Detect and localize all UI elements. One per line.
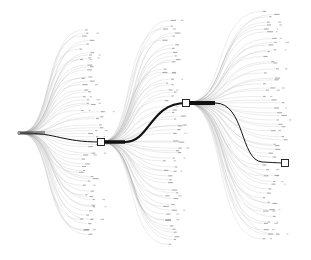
leaf-label-mark bbox=[269, 209, 275, 210]
leaf-label-mark bbox=[279, 209, 281, 210]
leaf-label-mark bbox=[173, 36, 175, 37]
leaf-label-mark bbox=[83, 185, 86, 186]
leaf-label-mark bbox=[88, 57, 91, 58]
leaf-label-mark bbox=[97, 57, 99, 58]
leaf-label-mark bbox=[93, 229, 96, 230]
leaf-label-mark bbox=[274, 42, 276, 43]
leaf-label-mark bbox=[277, 112, 282, 113]
leaf-label-mark bbox=[86, 33, 88, 34]
leaf-label-mark bbox=[90, 40, 95, 41]
leaf-label-mark bbox=[274, 107, 279, 108]
leaf-label-mark bbox=[267, 22, 270, 23]
leaf-label-mark bbox=[284, 184, 286, 185]
leaf-label-mark bbox=[175, 236, 180, 237]
leaf-label-mark bbox=[273, 144, 275, 145]
leaf-label-mark bbox=[89, 54, 92, 55]
leaf-label-mark bbox=[273, 156, 276, 157]
diagram-svg bbox=[0, 0, 311, 260]
leaf-label-mark bbox=[101, 111, 105, 112]
edge bbox=[101, 142, 171, 229]
leaf-label-mark bbox=[270, 96, 272, 97]
leaf-label-mark bbox=[96, 33, 98, 34]
leaf-label-mark bbox=[263, 238, 266, 239]
leaf-label-mark bbox=[97, 99, 100, 100]
leaf-label-mark bbox=[169, 244, 171, 245]
leaf-label-mark bbox=[269, 44, 274, 45]
leaf-labels bbox=[79, 11, 291, 245]
edge bbox=[101, 142, 167, 176]
edge bbox=[20, 67, 89, 133]
edge bbox=[186, 103, 275, 234]
leaf-label-mark bbox=[172, 112, 174, 113]
leaf-label-mark bbox=[103, 136, 105, 137]
leaf-label-mark bbox=[174, 118, 176, 119]
leaf-label-mark bbox=[273, 181, 275, 182]
leaf-label-mark bbox=[165, 220, 171, 221]
split-node bbox=[282, 160, 289, 167]
leaf-label-mark bbox=[90, 219, 93, 220]
edge bbox=[186, 32, 266, 103]
leaf-label-mark bbox=[177, 219, 180, 220]
leaf-label-mark bbox=[163, 28, 168, 29]
leaf-label-mark bbox=[88, 180, 91, 181]
leaf-label-mark bbox=[168, 182, 173, 183]
leaf-label-mark bbox=[99, 103, 101, 104]
leaf-label-mark bbox=[164, 69, 167, 70]
leaf-label-mark bbox=[171, 26, 173, 27]
leaf-label-mark bbox=[91, 104, 96, 105]
leaf-label-mark bbox=[268, 188, 271, 189]
leaf-label-mark bbox=[179, 142, 185, 143]
leaf-label-mark bbox=[181, 79, 183, 80]
leaf-label-mark bbox=[176, 89, 178, 90]
leaf-label-mark bbox=[163, 160, 166, 161]
leaf-label-mark bbox=[181, 116, 186, 117]
leaf-label-mark bbox=[264, 28, 269, 29]
leaf-label-mark bbox=[171, 79, 174, 80]
leaf-label-mark bbox=[164, 170, 169, 171]
leaf-label-mark bbox=[88, 76, 92, 77]
leaf-label-mark bbox=[285, 107, 287, 108]
edge bbox=[186, 69, 275, 103]
leaf-label-mark bbox=[88, 223, 91, 224]
edge bbox=[186, 63, 272, 103]
leaf-label-mark bbox=[102, 199, 105, 200]
leaf-label-mark bbox=[169, 179, 171, 180]
leaf-label-mark bbox=[274, 14, 280, 15]
edge bbox=[101, 83, 165, 142]
leaf-label-mark bbox=[266, 169, 269, 170]
leaf-label-mark bbox=[172, 48, 175, 49]
edge bbox=[186, 42, 273, 103]
leaf-label-mark bbox=[100, 127, 104, 128]
leaf-label-mark bbox=[277, 221, 279, 222]
leaf-label-mark bbox=[113, 111, 115, 112]
leaf-label-mark bbox=[99, 124, 102, 125]
leaf-label-mark bbox=[274, 79, 278, 80]
leaf-label-mark bbox=[172, 229, 175, 230]
leaf-label-mark bbox=[175, 33, 181, 34]
leaf-label-mark bbox=[79, 172, 84, 173]
leaf-label-mark bbox=[83, 96, 86, 97]
leaf-label-mark bbox=[171, 204, 175, 205]
leaf-label-mark bbox=[272, 229, 275, 230]
root-bundle bbox=[18, 131, 45, 135]
leaf-label-mark bbox=[171, 84, 173, 85]
edge bbox=[20, 60, 79, 133]
leaf-label-mark bbox=[86, 44, 89, 45]
leaf-label-mark bbox=[88, 133, 93, 134]
leaf-label-mark bbox=[181, 171, 183, 172]
leaf-label-mark bbox=[105, 206, 107, 207]
leaf-label-mark bbox=[85, 29, 87, 30]
edge bbox=[186, 73, 263, 103]
leaf-label-mark bbox=[282, 87, 285, 88]
leaf-label-mark bbox=[276, 175, 278, 176]
leaf-label-mark bbox=[83, 170, 85, 171]
leaf-label-mark bbox=[93, 178, 99, 179]
leaf-label-mark bbox=[93, 206, 96, 207]
leaf-label-mark bbox=[273, 216, 276, 217]
leaf-label-mark bbox=[165, 100, 169, 101]
leaf-label-mark bbox=[263, 96, 266, 97]
leaf-label-mark bbox=[165, 195, 169, 196]
edge bbox=[186, 50, 273, 103]
leaf-label-mark bbox=[96, 136, 98, 137]
edge bbox=[20, 65, 86, 133]
